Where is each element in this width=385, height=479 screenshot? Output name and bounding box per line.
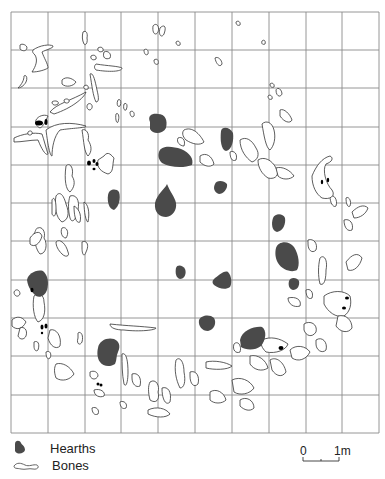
black-mark xyxy=(96,162,99,166)
bone xyxy=(262,122,275,150)
bone xyxy=(346,255,362,271)
bone xyxy=(87,104,92,110)
bone xyxy=(122,354,128,386)
scale-bar-line xyxy=(300,456,346,464)
bone xyxy=(261,338,288,353)
black-mark xyxy=(97,383,100,386)
bone xyxy=(352,206,368,218)
black-mark xyxy=(35,121,43,126)
bone xyxy=(84,85,89,89)
hearth xyxy=(221,128,234,151)
black-mark xyxy=(100,384,103,387)
bone xyxy=(236,21,240,25)
bone xyxy=(230,151,237,160)
black-mark xyxy=(345,297,349,300)
hearth xyxy=(213,272,232,289)
bone xyxy=(154,59,158,64)
bone xyxy=(65,165,74,192)
bone xyxy=(148,408,170,417)
bone xyxy=(312,156,333,199)
bone xyxy=(288,297,300,306)
bone xyxy=(95,64,123,71)
bone xyxy=(130,111,134,117)
hearth xyxy=(176,265,186,279)
bone xyxy=(162,388,171,404)
bone xyxy=(232,378,254,394)
bone xyxy=(61,228,67,238)
black-mark xyxy=(327,178,329,182)
bone xyxy=(103,51,110,58)
hearth xyxy=(275,242,298,271)
bone xyxy=(52,101,58,105)
bone xyxy=(62,78,76,86)
legend-hearths-label: Hearths xyxy=(50,441,96,456)
bone xyxy=(82,31,87,44)
bone xyxy=(276,88,282,96)
bone xyxy=(28,131,32,135)
bone xyxy=(200,154,214,166)
black-mark xyxy=(41,325,44,330)
hearth xyxy=(149,114,166,133)
hearth xyxy=(97,338,119,366)
bone xyxy=(14,290,20,296)
bone xyxy=(46,123,86,156)
bone xyxy=(124,103,127,110)
bone xyxy=(110,324,156,331)
bone xyxy=(56,241,69,256)
site-plan xyxy=(0,0,385,440)
bone xyxy=(268,95,272,99)
bone xyxy=(344,220,353,231)
bone xyxy=(210,390,226,403)
bone xyxy=(82,241,88,254)
black-mark xyxy=(31,288,34,292)
bone xyxy=(98,47,103,52)
black-mark xyxy=(87,161,91,166)
bone xyxy=(159,26,165,36)
legend-hearths: Hearths xyxy=(12,440,96,456)
bone xyxy=(52,198,56,216)
bone xyxy=(55,363,75,380)
bone xyxy=(132,374,141,387)
bone xyxy=(175,359,185,388)
bone xyxy=(153,24,159,34)
bone xyxy=(149,381,159,402)
bone xyxy=(55,194,68,222)
bone xyxy=(18,327,27,339)
bone xyxy=(250,356,268,370)
legend-bones: Bones xyxy=(12,458,89,473)
black-mark xyxy=(93,168,96,170)
bone xyxy=(98,153,114,174)
bone xyxy=(176,41,180,45)
bone xyxy=(306,289,313,298)
hearth xyxy=(108,190,120,210)
bone xyxy=(14,133,48,154)
black-mark xyxy=(41,332,43,334)
bone xyxy=(276,167,294,179)
bones-layer xyxy=(12,21,368,417)
bone xyxy=(316,339,326,352)
bone xyxy=(82,130,91,156)
hearth xyxy=(272,214,285,232)
bone xyxy=(258,158,278,178)
legend-bones-label: Bones xyxy=(52,458,89,473)
bone xyxy=(183,129,204,144)
bone xyxy=(77,332,82,344)
hearth xyxy=(199,316,215,331)
bone xyxy=(90,371,98,379)
bone xyxy=(240,138,258,162)
bone xyxy=(92,407,99,414)
bone xyxy=(48,330,60,348)
scale-bar: 0 1m xyxy=(300,444,350,464)
bone xyxy=(117,99,121,106)
bone xyxy=(290,346,310,360)
bone xyxy=(144,49,148,55)
bone xyxy=(270,359,286,376)
bone xyxy=(215,57,222,65)
bone xyxy=(91,55,96,60)
bone xyxy=(280,110,292,122)
hearth xyxy=(214,181,227,194)
bone xyxy=(177,137,184,146)
bone xyxy=(240,398,254,410)
hearth xyxy=(158,147,192,167)
black-mark xyxy=(45,324,48,329)
